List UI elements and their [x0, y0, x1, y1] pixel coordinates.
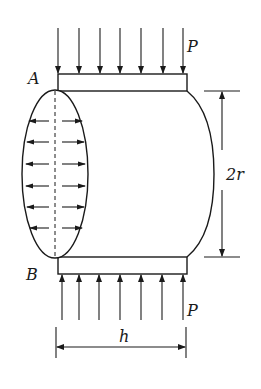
label-length: h — [119, 327, 129, 346]
diagram-canvas: A B P P 2r h — [0, 0, 261, 389]
label-diameter: 2r — [225, 165, 245, 184]
top-plate — [58, 74, 187, 91]
bottom-plate — [58, 257, 187, 274]
label-point-a: A — [26, 69, 40, 88]
label-load-top: P — [186, 37, 198, 56]
label-point-b: B — [25, 265, 38, 284]
top-load-arrows — [58, 28, 183, 73]
bottom-load-arrows — [62, 275, 183, 320]
label-load-bottom: P — [186, 301, 198, 320]
cylinder-right-edge — [187, 91, 214, 257]
cylinder-diagram: A B P P 2r h — [0, 0, 261, 389]
